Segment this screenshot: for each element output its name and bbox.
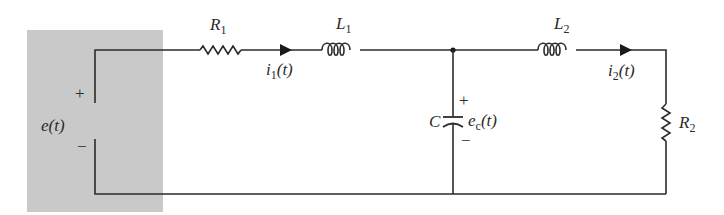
label-ec: ec(t): [468, 111, 497, 133]
resistor-r2-icon: [662, 104, 670, 141]
circuit-diagram: + − e(t) R1 L1 i1(t) C + − ec(t) L2 i2(t…: [0, 0, 724, 215]
current-i2-arrow-icon: [620, 44, 632, 56]
label-r1: R1: [209, 15, 226, 37]
current-i1-arrow-icon: [280, 44, 292, 56]
bottom-ground-wire: [95, 139, 666, 194]
source-minus-sign: −: [77, 137, 87, 156]
capacitor-minus-sign: −: [461, 131, 471, 150]
label-l1: L1: [335, 14, 351, 36]
label-l2: L2: [553, 14, 569, 36]
source-label: e(t): [41, 116, 65, 135]
label-i1: i1(t): [266, 60, 293, 82]
inductor-l2-icon: [538, 43, 566, 55]
inductor-l1-icon: [322, 43, 350, 55]
label-r2: R2: [678, 113, 695, 135]
resistor-r1-icon: [200, 46, 241, 54]
capacitor-plus-sign: +: [459, 91, 469, 110]
source-plus-sign: +: [75, 84, 85, 103]
label-i2: i2(t): [608, 61, 635, 83]
label-c: C: [429, 112, 441, 131]
